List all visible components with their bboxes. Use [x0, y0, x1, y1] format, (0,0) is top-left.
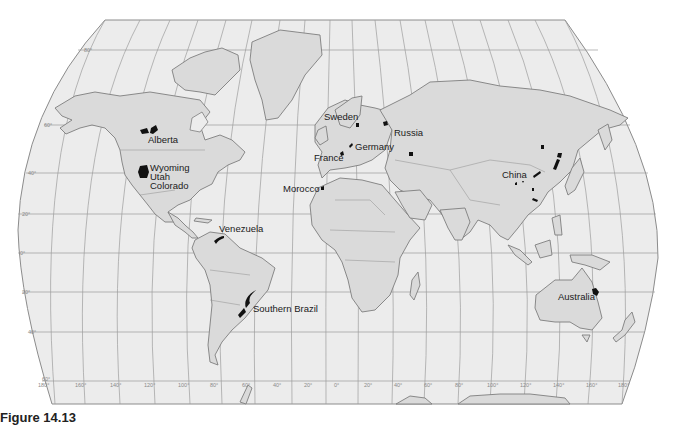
svg-text:20°: 20° — [22, 211, 30, 217]
deposit-china-1 — [541, 145, 544, 149]
label-southern-brazil: Southern Brazil — [253, 303, 318, 314]
svg-text:20°: 20° — [364, 382, 372, 388]
svg-text:80°: 80° — [210, 382, 218, 388]
label-france: France — [314, 152, 344, 163]
label-australia: Australia — [558, 291, 596, 302]
svg-text:20°: 20° — [304, 382, 312, 388]
svg-text:180°: 180° — [618, 382, 629, 388]
svg-text:0°: 0° — [20, 250, 25, 256]
deposit-russia-volga — [409, 152, 413, 156]
svg-text:120°: 120° — [520, 382, 531, 388]
svg-text:140°: 140° — [553, 382, 564, 388]
svg-text:140°: 140° — [110, 382, 121, 388]
svg-text:40°: 40° — [28, 170, 36, 176]
svg-text:100°: 100° — [178, 382, 189, 388]
svg-text:60°: 60° — [44, 122, 52, 128]
svg-text:60°: 60° — [424, 382, 432, 388]
svg-text:180°: 180° — [38, 382, 49, 388]
svg-text:40°: 40° — [394, 382, 402, 388]
figure-caption: Figure 14.13 — [0, 410, 76, 425]
svg-text:100°: 100° — [487, 382, 498, 388]
deposit-china-7 — [532, 188, 534, 191]
svg-text:20°: 20° — [22, 289, 30, 295]
label-morocco: Morocco — [283, 183, 319, 194]
svg-text:40°: 40° — [273, 382, 281, 388]
label-russia: Russia — [394, 127, 424, 138]
svg-text:80°: 80° — [455, 382, 463, 388]
deposit-sweden — [356, 123, 359, 127]
label-venezuela: Venezuela — [219, 223, 264, 234]
svg-text:80°: 80° — [84, 47, 92, 53]
label-colorado: Colorado — [150, 180, 189, 191]
svg-text:40°: 40° — [28, 329, 36, 335]
label-sweden: Sweden — [324, 111, 358, 122]
svg-text:120°: 120° — [144, 382, 155, 388]
svg-text:160°: 160° — [586, 382, 597, 388]
label-china: China — [502, 169, 528, 180]
label-alberta: Alberta — [148, 134, 179, 145]
label-germany: Germany — [355, 141, 394, 152]
svg-text:60°: 60° — [242, 382, 250, 388]
svg-text:0°: 0° — [334, 382, 339, 388]
svg-text:160°: 160° — [75, 382, 86, 388]
